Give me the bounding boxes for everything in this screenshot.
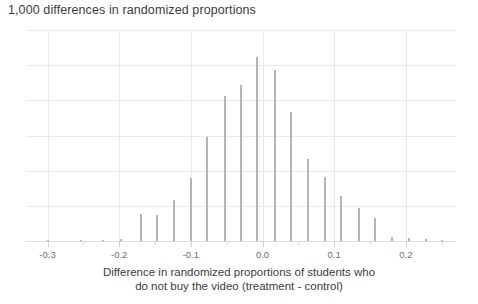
histogram-bar (340, 196, 342, 241)
x-tick-minor (370, 241, 371, 245)
x-tick-minor (442, 241, 443, 245)
histogram-bar (274, 70, 276, 241)
x-tick-label: -0.2 (111, 249, 127, 260)
gridline-horizontal (26, 65, 456, 66)
x-tick-label: 0.2 (399, 249, 412, 260)
x-tick-label: -0.1 (183, 249, 199, 260)
x-axis-label-line-2: do not buy the video (treatment - contro… (0, 279, 478, 293)
histogram-bar (240, 85, 242, 241)
x-axis-line (26, 241, 456, 242)
x-tick-minor (298, 241, 299, 245)
x-tick-minor (83, 241, 84, 245)
histogram-bar (307, 159, 309, 241)
histogram-bar (324, 177, 326, 241)
chart-title: 1,000 differences in randomized proporti… (8, 3, 256, 17)
x-tick-label: 0.0 (256, 249, 269, 260)
gridline-horizontal (26, 30, 456, 31)
histogram-bar (173, 200, 175, 241)
gridline-vertical (48, 30, 49, 241)
histogram-bar (256, 57, 258, 241)
x-tick-major (119, 241, 120, 247)
histogram-bar (358, 208, 360, 241)
histogram-bar (224, 96, 226, 241)
histogram-figure: 1,000 differences in randomized proporti… (0, 0, 478, 304)
x-axis-label-line-1: Difference in randomized proportions of … (0, 265, 478, 279)
x-tick-minor (155, 241, 156, 245)
histogram-bar (190, 178, 192, 241)
x-tick-major (406, 241, 407, 247)
x-tick-major (191, 241, 192, 247)
x-tick-major (48, 241, 49, 247)
gridline-vertical (119, 30, 120, 241)
histogram-bar (140, 214, 142, 241)
x-tick-label: 0.1 (328, 249, 341, 260)
x-tick-major (263, 241, 264, 247)
gridline-vertical (334, 30, 335, 241)
histogram-bar (156, 215, 158, 241)
histogram-bar (374, 218, 376, 241)
histogram-bar (206, 137, 208, 241)
gridline-vertical (263, 30, 264, 241)
x-tick-label: -0.3 (39, 249, 55, 260)
histogram-bar (290, 112, 292, 241)
x-tick-major (334, 241, 335, 247)
plot-area (26, 30, 456, 241)
gridline-vertical (406, 30, 407, 241)
x-tick-minor (227, 241, 228, 245)
x-axis-label: Difference in randomized proportions of … (0, 265, 478, 293)
